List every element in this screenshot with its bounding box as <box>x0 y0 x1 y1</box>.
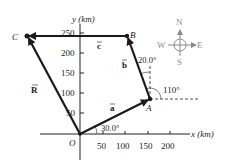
y-tick-label-150: 150 <box>61 68 75 78</box>
vector-labels: a b c R <box>31 41 127 113</box>
compass-north-label: N <box>176 17 183 27</box>
vector-label-c-text: c <box>97 41 101 51</box>
compass-west-label: W <box>157 40 166 50</box>
x-axis-label: x (km) <box>190 129 214 139</box>
x-tick-label-150: 150 <box>139 141 153 151</box>
compass-south-label: S <box>177 57 182 67</box>
vector-b <box>128 38 150 99</box>
origin-label: O <box>69 138 76 148</box>
compass-rose: N S W E <box>157 17 203 67</box>
point-A-dot <box>148 97 152 101</box>
angle-label-110: 110° <box>163 85 180 95</box>
y-tick-label-100: 100 <box>61 88 75 98</box>
vectors <box>25 34 153 136</box>
vector-label-c: c <box>97 41 102 51</box>
point-O-dot <box>78 132 82 136</box>
x-tick-label-50: 50 <box>97 141 107 151</box>
angle-arc-b <box>141 72 150 74</box>
point-B-dot <box>125 34 129 38</box>
vector-label-b-text: b <box>122 60 127 70</box>
vector-label-b: b <box>122 60 127 70</box>
point-label-B: B <box>130 30 136 40</box>
vector-label-a: a <box>110 103 115 113</box>
point-label-C: C <box>12 32 19 42</box>
angle-label-b: 20.0° <box>138 55 156 65</box>
vector-label-R-text: R <box>31 85 38 95</box>
vector-label-a-text: a <box>110 103 115 113</box>
point-C-dot <box>25 34 30 39</box>
compass-east-label: E <box>197 40 203 50</box>
x-tick-label-100: 100 <box>116 141 130 151</box>
point-labels: A B C <box>12 30 152 113</box>
vector-diagram: 50 100 150 200 x (km) 50 100 150 200 250… <box>0 0 225 163</box>
y-tick-label-200: 200 <box>61 48 75 58</box>
y-axis-label: y (km) <box>71 14 95 24</box>
point-label-A: A <box>145 103 152 113</box>
vector-label-R: R <box>31 85 38 95</box>
x-tick-label-200: 200 <box>161 141 175 151</box>
angle-label-a: 30.0° <box>101 123 119 133</box>
